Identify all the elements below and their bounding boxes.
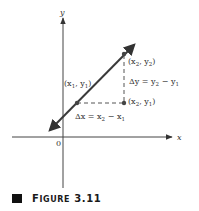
y-axis-label: y — [59, 8, 65, 17]
label-x2-y2: (x2, y2) — [128, 57, 155, 67]
caption-text: FIGURE 3.11 — [32, 193, 101, 204]
point-x2-y2 — [122, 52, 126, 56]
caption-square-icon — [12, 194, 22, 203]
label-x2-y1: (x2, y1) — [128, 97, 155, 107]
origin-label: 0 — [56, 139, 61, 148]
point-x1-y1 — [75, 101, 79, 105]
delta-x-label: Δx = x2 − x1 — [75, 112, 125, 122]
delta-y-label: Δy = y2 − y1 — [129, 77, 179, 87]
x-axis-label: x — [177, 133, 182, 142]
figure-caption: FIGURE 3.11 — [12, 193, 101, 204]
point-x2-y1 — [122, 101, 126, 105]
label-x1-y1: (x1, y1) — [64, 79, 91, 89]
slope-diagram: y x 0 (x1, y1) (x2, y2) (x2, y1) Δy = y2… — [0, 0, 199, 211]
